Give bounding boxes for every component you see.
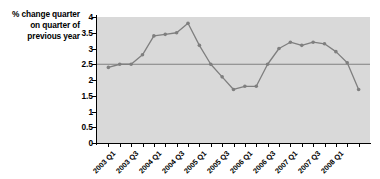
x-axis-tick-mark [347,143,348,147]
y-axis-tick-mark [92,80,96,81]
x-axis-tick-mark [199,143,200,147]
y-axis-tick-mark [92,96,96,97]
x-axis-tick-labels: 2003 Q12003 Q32004 Q12004 Q32005 Q12005 … [0,0,380,179]
x-axis-tick-mark [302,143,303,147]
y-axis-tick-mark [92,33,96,34]
y-axis-tick-mark [92,49,96,50]
y-axis-tick-mark [92,17,96,18]
x-axis-tick-mark [336,143,337,147]
x-axis-tick-mark [131,143,132,147]
x-axis-tick-mark [154,143,155,147]
x-axis-tick-mark [234,143,235,147]
x-axis-tick-label: 2008 Q1 [339,129,365,155]
y-axis-tick-mark [92,64,96,65]
x-axis-tick-mark [108,143,109,147]
x-axis-tick-mark [211,143,212,147]
x-axis-tick-mark [325,143,326,147]
y-axis-tick-mark [92,127,96,128]
x-axis-tick-mark [313,143,314,147]
x-axis-tick-mark [245,143,246,147]
x-axis-tick-mark [359,143,360,147]
y-axis-tick-mark [92,143,96,144]
chart-container: % change quarter on quarter of previous … [0,0,380,179]
x-axis-tick-mark [268,143,269,147]
x-axis-tick-mark [188,143,189,147]
x-axis-tick-mark [222,143,223,147]
y-axis-tick-mark [92,112,96,113]
x-axis-tick-mark [256,143,257,147]
x-axis-tick-mark [120,143,121,147]
x-axis-tick-mark [290,143,291,147]
x-axis-tick-mark [279,143,280,147]
x-axis-tick-mark [165,143,166,147]
x-axis-tick-mark [143,143,144,147]
x-axis-tick-mark [177,143,178,147]
